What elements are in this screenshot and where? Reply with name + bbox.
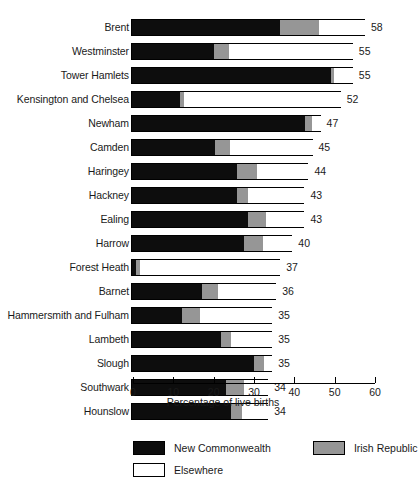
bar-segment-nc <box>132 236 244 251</box>
bar-segment-ir <box>202 284 218 299</box>
bar-segment-ir <box>215 140 230 155</box>
chart-legend: New Commonwealth Irish Republic Elsewher… <box>133 437 418 481</box>
x-axis-tick <box>254 377 255 383</box>
bar-row: Hackney43 <box>0 183 418 207</box>
bar-row: Lambeth35 <box>0 327 418 351</box>
legend-swatch-new-commonwealth <box>133 441 165 455</box>
legend-item-new-commonwealth: New Commonwealth <box>133 441 271 455</box>
bar-segment-el <box>248 188 305 203</box>
bar-segment-el <box>184 92 342 107</box>
bar-segment-ir <box>182 308 200 323</box>
stacked-bar <box>131 331 272 348</box>
bar-row: Westminster55 <box>0 39 418 63</box>
bar-segment-ir <box>237 188 248 203</box>
bar-value-label: 35 <box>278 309 290 321</box>
bar-segment-nc <box>132 356 254 371</box>
stacked-bar <box>131 43 353 60</box>
bar-segment-ir <box>244 236 263 251</box>
bar-segment-nc <box>132 332 221 347</box>
bar-category-label: Westminster <box>0 45 131 57</box>
bar-row: Kensington and Chelsea52 <box>0 87 418 111</box>
legend-item-irish-republic: Irish Republic <box>313 441 418 455</box>
bar-value-label: 37 <box>286 261 298 273</box>
bar-value-label: 47 <box>327 117 339 129</box>
bar-value-label: 45 <box>319 141 331 153</box>
bar-row: Camden45 <box>0 135 418 159</box>
bar-value-label: 35 <box>278 333 290 345</box>
bar-segment-nc <box>132 212 248 227</box>
stacked-bar <box>131 19 365 36</box>
stacked-bar <box>131 259 280 276</box>
x-axis-tick <box>173 377 174 383</box>
bar-segment-ir <box>221 332 231 347</box>
bar-segment-nc <box>132 308 182 323</box>
stacked-bar <box>131 139 313 156</box>
bar-category-label: Slough <box>0 357 131 369</box>
bar-category-label: Harrow <box>0 237 131 249</box>
bar-row: Hammersmith and Fulham35 <box>0 303 418 327</box>
bar-segment-nc <box>132 164 237 179</box>
legend-swatch-elsewhere <box>133 463 165 477</box>
bar-category-label: Forest Heath <box>0 261 131 273</box>
bar-row: Brent58 <box>0 15 418 39</box>
x-axis-tick <box>214 377 215 383</box>
bar-category-label: Lambeth <box>0 333 131 345</box>
stacked-bar-chart: Brent58Westminster55Tower Hamlets55Kensi… <box>0 0 418 483</box>
bar-segment-ir <box>226 380 244 395</box>
x-axis-title: Percentage of live births <box>0 396 418 408</box>
bar-value-label: 44 <box>314 165 326 177</box>
bar-category-label: Barnet <box>0 285 131 297</box>
bar-row: Newham47 <box>0 111 418 135</box>
bar-segment-ir <box>237 164 257 179</box>
bar-category-label: Hackney <box>0 189 131 201</box>
bar-row: Slough35 <box>0 351 418 375</box>
bar-segment-nc <box>132 188 237 203</box>
bar-segment-nc <box>132 140 215 155</box>
bar-row: Haringey44 <box>0 159 418 183</box>
bar-category-label: Hammersmith and Fulham <box>0 309 131 321</box>
bar-segment-el <box>200 308 273 323</box>
legend-row-secondary: Elsewhere <box>133 459 418 481</box>
bar-value-label: 43 <box>310 213 322 225</box>
x-axis-tick <box>335 377 336 383</box>
bar-value-label: 52 <box>347 93 359 105</box>
stacked-bar <box>131 283 276 300</box>
stacked-bar <box>131 163 308 180</box>
bar-row: Tower Hamlets55 <box>0 63 418 87</box>
bar-row: Harrow40 <box>0 231 418 255</box>
bar-segment-el <box>312 116 321 131</box>
stacked-bar <box>131 307 272 324</box>
bar-segment-nc <box>132 92 180 107</box>
bar-segment-ir <box>248 212 266 227</box>
bar-value-label: 43 <box>310 189 322 201</box>
bar-category-label: Brent <box>0 21 131 33</box>
bar-value-label: 58 <box>371 21 383 33</box>
bar-category-label: Haringey <box>0 165 131 177</box>
x-axis-title-text: Percentage of live births <box>167 396 280 408</box>
bar-segment-nc <box>132 284 202 299</box>
bar-segment-el <box>231 332 273 347</box>
bar-row: Barnet36 <box>0 279 418 303</box>
bar-segment-el <box>257 164 309 179</box>
bar-segment-nc <box>132 68 331 83</box>
bar-category-label: Camden <box>0 141 131 153</box>
bar-category-label: Tower Hamlets <box>0 69 131 81</box>
x-axis-tick <box>133 377 134 383</box>
bar-segment-ir <box>305 116 312 131</box>
bar-segment-el <box>266 212 305 227</box>
legend-row-primary: New Commonwealth Irish Republic <box>133 437 418 459</box>
legend-label-new-commonwealth: New Commonwealth <box>174 442 271 454</box>
bar-segment-ir <box>280 20 319 35</box>
stacked-bar <box>131 355 272 372</box>
x-axis-tick <box>375 377 376 383</box>
bar-category-label: Newham <box>0 117 131 129</box>
bar-segment-ir <box>214 44 229 59</box>
stacked-bar <box>131 211 304 228</box>
legend-label-irish-republic: Irish Republic <box>354 442 418 454</box>
bar-value-label: 55 <box>359 69 371 81</box>
stacked-bar <box>131 115 321 132</box>
bar-value-label: 35 <box>278 357 290 369</box>
bar-segment-el <box>264 356 273 371</box>
bar-segment-el <box>230 140 313 155</box>
bar-segment-el <box>319 20 366 35</box>
